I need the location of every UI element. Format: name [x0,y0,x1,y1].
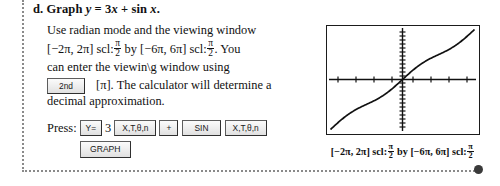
instruction-line-3: can enter the viewin\g window using [47,59,287,76]
instruction-line-2-tail: . You [215,41,241,55]
instruction-line-2: [−2π, 2π] scl:π2 by [−6π, 6π] scl:π2. Yo… [47,39,287,59]
calculator-key-y-equals[interactable]: Y= [80,120,102,136]
title-plus-sin: + sin [121,2,147,16]
caption-by: by [397,146,408,157]
calculator-key-x-t-theta-n[interactable]: X,T,θ,n [114,120,156,136]
title-equation: = 3 [95,2,112,16]
caption-fraction-y: π2 [467,143,474,161]
graph-plot [327,26,478,133]
caption-x-interval: [−2π, 2π] scl: [331,146,387,157]
calculator-key-plus[interactable]: + [159,120,178,136]
instruction-line-1: Use radian mode and the viewing window [47,22,287,39]
keystroke-sequence: Press:Y=3X,T,θ,n + SIN X,T,θ,n [47,120,267,136]
window-x-interval: [−2π, 2π] scl: [47,41,114,55]
calculator-key-x-t-theta-n-2[interactable]: X,T,θ,n [225,120,267,136]
title-variable-y: y [86,2,92,16]
title-prefix: Graph [47,2,83,16]
bottom-dotted-rule [22,170,478,172]
press-label: Press: [47,121,77,135]
caption-fraction-x: π2 [388,143,395,161]
instruction-text: Use radian mode and the viewing window [… [47,22,287,75]
end-of-section-dot [474,165,483,174]
problem-label: d. [33,2,43,16]
calculator-key-2nd[interactable]: 2nd [47,78,85,94]
instruction-line-5: decimal approximation. [47,94,165,109]
left-dotted-rule [22,0,24,172]
fraction-pi-over-two-x: π2 [114,39,121,59]
caption-y-interval: [−6π, 6π] scl: [410,146,466,157]
title-variable-x1: x [111,2,117,16]
graphing-calculator-screen [326,25,480,135]
fraction-pi-over-two-y: π2 [207,39,214,59]
keystroke-number-3: 3 [105,121,111,135]
instruction-line-4: [π]. The calculator will determine a [96,78,272,93]
title-period: . [157,2,160,16]
calculator-key-graph[interactable]: GRAPH [80,141,131,158]
calculator-key-sin[interactable]: SIN [182,120,222,136]
exercise-page: d. Graph y = 3x + sin x. Use radian mode… [0,0,500,186]
page-title: d. Graph y = 3x + sin x. [33,2,160,17]
graph-caption: [−2π, 2π] scl:π2 by [−6π, 6π] scl:π2 [305,143,500,161]
window-y-interval: by [−6π, 6π] scl: [125,41,207,55]
